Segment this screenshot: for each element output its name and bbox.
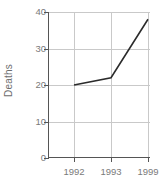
y-tick-label: 30 [20,44,46,54]
x-tick-label: 1993 [100,167,121,177]
line-chart: Deaths 010203040 199219931999 [0,0,162,189]
y-tick-label: 10 [20,117,46,127]
y-tick-label: 40 [20,7,46,17]
x-tick-mark [148,158,149,162]
y-axis-tick-labels: 010203040 [16,0,46,189]
y-axis-title-label: Deaths [3,64,14,97]
y-tick-label: 20 [20,80,46,90]
x-tick-mark [111,158,112,162]
x-tick-label: 1992 [63,167,84,177]
x-tick-label: 1999 [137,167,158,177]
y-tick-mark [44,158,48,159]
y-tick-label: 0 [20,153,46,163]
x-axis-tick-labels: 199219931999 [0,167,162,187]
plot-area [48,12,150,158]
x-tick-mark [74,158,75,162]
series-polyline [74,19,148,85]
data-series-line [48,12,150,158]
y-axis-title: Deaths [0,0,16,160]
